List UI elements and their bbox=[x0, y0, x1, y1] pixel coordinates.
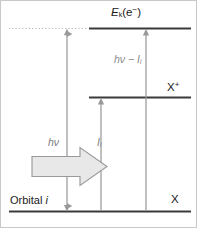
ionization-energy-arrow-label-subscript: i bbox=[100, 141, 101, 148]
cation-level-label-symbol: X bbox=[167, 81, 175, 93]
ground-level-label-symbol: X bbox=[171, 193, 179, 205]
incident-photon-block-arrow bbox=[32, 148, 107, 186]
kinetic-energy-arrow-label-subscript: i bbox=[140, 58, 141, 65]
photon-energy-arrowhead-up bbox=[64, 29, 70, 35]
photon-energy-arrowhead-down bbox=[64, 205, 70, 211]
kinetic-energy-arrow-label: hν − Ii bbox=[114, 54, 141, 66]
cation-level-label: X+ bbox=[167, 81, 179, 93]
ionization-energy-arrowhead bbox=[98, 98, 104, 105]
top-level-label-paren-open: (e bbox=[122, 6, 132, 18]
top-level-label-paren-close: ) bbox=[137, 6, 141, 18]
ground-level-label: X bbox=[171, 194, 179, 206]
kinetic-energy-arrowhead bbox=[143, 29, 149, 36]
ionization-energy-arrow-label: Ii bbox=[97, 137, 101, 149]
photon-energy-arrow-label: hν bbox=[48, 137, 59, 148]
orbital-label-index: i bbox=[45, 194, 47, 206]
photon-energy-arrow-label-text: hν bbox=[48, 136, 59, 148]
top-level-label: Ek(e−) bbox=[111, 6, 141, 19]
top-level-label-symbol: E bbox=[111, 6, 119, 18]
energy-level-diagram-figure: Ek(e−) X+ X Orbital i hν Ii hν − Ii bbox=[0, 0, 197, 228]
orbital-label-word: Orbital bbox=[10, 194, 42, 206]
orbital-label: Orbital i bbox=[10, 195, 48, 206]
cation-level-label-charge: + bbox=[175, 80, 180, 89]
kinetic-energy-arrow-label-text: hν − I bbox=[114, 53, 140, 65]
